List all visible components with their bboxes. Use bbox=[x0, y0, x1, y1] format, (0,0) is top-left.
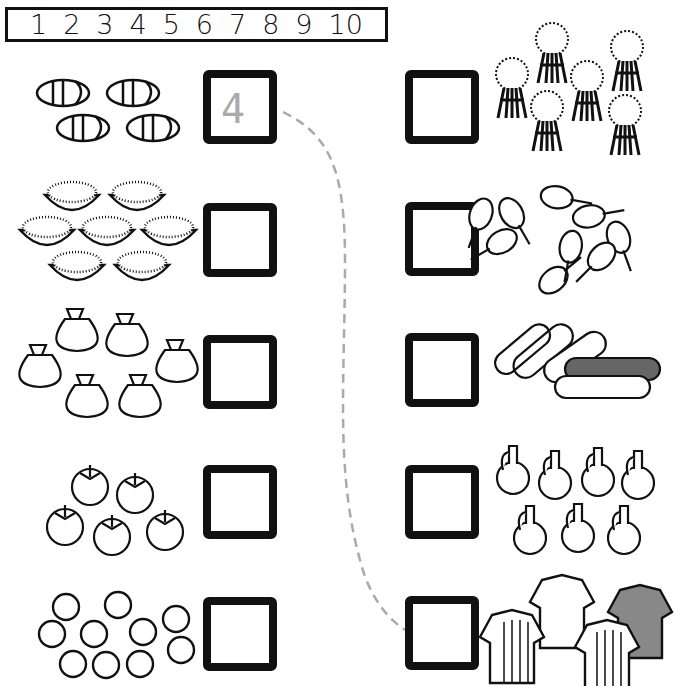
number-9: 9 bbox=[295, 11, 312, 38]
tomatoes-group bbox=[40, 455, 190, 565]
number-10: 10 bbox=[329, 11, 363, 38]
jugs-group bbox=[490, 440, 670, 555]
drumsticks-group bbox=[485, 175, 674, 295]
answer-box-cloth[interactable] bbox=[405, 333, 479, 407]
number-3: 3 bbox=[96, 11, 113, 38]
number-7: 7 bbox=[229, 11, 246, 38]
answer-box-sacks[interactable] bbox=[203, 335, 277, 409]
number-5: 5 bbox=[163, 11, 180, 38]
answer-box-sandals[interactable]: 4 bbox=[203, 70, 277, 144]
coins-group bbox=[38, 592, 198, 682]
answer-box-bowls[interactable] bbox=[203, 203, 277, 277]
number-2: 2 bbox=[63, 11, 80, 38]
number-6: 6 bbox=[196, 11, 213, 38]
answer-box-jugs[interactable] bbox=[405, 465, 479, 539]
bowls-group bbox=[15, 180, 200, 290]
number-line: 1 2 3 4 5 6 7 8 9 10 bbox=[5, 7, 388, 42]
sacks-group bbox=[8, 305, 198, 435]
shirts-group bbox=[482, 570, 674, 686]
traced-number: 4 bbox=[221, 86, 245, 132]
answer-box-shirts[interactable] bbox=[405, 596, 479, 670]
answer-box-tomatoes[interactable] bbox=[203, 465, 277, 539]
answer-box-wheat[interactable] bbox=[405, 70, 479, 144]
sandals-group bbox=[30, 70, 195, 145]
number-1: 1 bbox=[30, 11, 47, 38]
number-4: 4 bbox=[130, 11, 147, 38]
answer-box-drumsticks[interactable] bbox=[405, 202, 479, 276]
answer-box-coins[interactable] bbox=[203, 597, 277, 671]
wheat-group bbox=[487, 25, 674, 165]
number-8: 8 bbox=[262, 11, 279, 38]
cloth-rolls-group bbox=[490, 320, 665, 405]
